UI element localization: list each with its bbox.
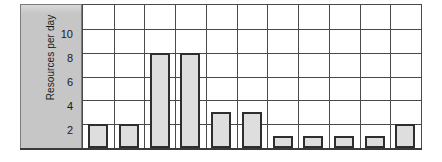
y-tick-label-6: 6	[49, 77, 73, 88]
bar	[119, 124, 139, 148]
bar	[150, 53, 170, 148]
bar	[180, 53, 200, 148]
bar	[395, 124, 415, 148]
y-tick-label-4: 4	[49, 101, 73, 112]
bar	[365, 136, 385, 148]
y-tick-label-2: 2	[49, 125, 73, 136]
y-tick-label-10: 10	[49, 29, 73, 40]
bar	[242, 112, 262, 148]
plot-area	[82, 4, 422, 149]
bar	[88, 124, 108, 148]
chart-baseline	[20, 148, 422, 150]
y-axis-panel: Resources per day 10 8 6 4 2	[20, 4, 82, 149]
bar	[334, 136, 354, 148]
bar	[303, 136, 323, 148]
bar	[273, 136, 293, 148]
bars-layer	[83, 5, 421, 148]
y-tick-label-8: 8	[49, 53, 73, 64]
bar	[211, 112, 231, 148]
bar-chart-figure: Resources per day 10 8 6 4 2	[0, 0, 442, 162]
